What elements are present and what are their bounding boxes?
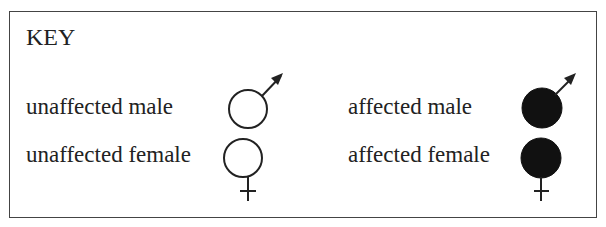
affected-male-icon	[522, 73, 576, 128]
unaffected-male-icon	[229, 73, 283, 128]
affected-female-icon	[521, 138, 561, 201]
unaffected-female-icon	[224, 139, 262, 201]
